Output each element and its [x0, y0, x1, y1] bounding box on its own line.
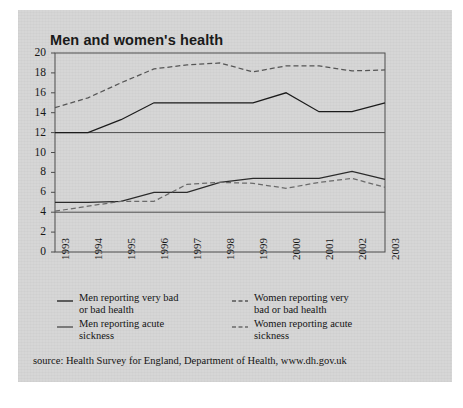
source-note: source: Health Survey for England, Depar…	[33, 355, 347, 366]
series-line-3	[55, 178, 385, 211]
x-tick-label: 1994	[92, 238, 104, 260]
series-line-1	[55, 63, 385, 108]
legend-label-line2: sickness	[79, 330, 164, 342]
y-tick-label: 4	[24, 205, 46, 217]
legend-label-line1: Women reporting acute	[254, 318, 352, 330]
legend-label-line1: Men reporting acute	[79, 318, 164, 330]
legend-item-label: Women reporting acutesickness	[254, 318, 352, 341]
legend-item-label: Women reporting verybad or bad health	[254, 292, 349, 315]
legend-label-line2: or bad health	[79, 304, 178, 316]
dashed-line-marker	[232, 292, 254, 315]
solid-line-marker	[57, 318, 79, 341]
x-tick-label: 2003	[389, 238, 401, 260]
x-tick-label: 2002	[356, 238, 368, 260]
legend-item-label: Men reporting acutesickness	[79, 318, 164, 341]
dashed-line-marker	[232, 318, 254, 341]
x-tick-label: 1996	[158, 238, 170, 260]
y-tick-label: 6	[24, 185, 46, 197]
plot-frame	[55, 53, 385, 252]
legend-label-line1: Men reporting very bad	[79, 292, 178, 304]
y-tick-label: 10	[24, 146, 46, 158]
series-line-0	[55, 93, 385, 133]
x-tick-label: 1999	[257, 238, 269, 260]
y-tick-label: 0	[24, 245, 46, 257]
x-tick-label: 2000	[290, 238, 302, 260]
x-tick-label: 1997	[191, 238, 203, 260]
y-tick-label: 20	[24, 46, 46, 58]
x-tick-label: 1998	[224, 238, 236, 260]
x-tick-label: 1993	[59, 238, 71, 260]
y-tick-label: 18	[24, 66, 46, 78]
y-tick-label: 8	[24, 165, 46, 177]
legend-label-line2: sickness	[254, 330, 352, 342]
series-line-2	[55, 171, 385, 202]
y-tick-label: 2	[24, 225, 46, 237]
chart-legend: Men reporting very bador bad healthWomen…	[57, 292, 417, 344]
legend-item-label: Men reporting very bador bad health	[79, 292, 178, 315]
y-tick-label: 12	[24, 126, 46, 138]
legend-label-line1: Women reporting very	[254, 292, 349, 304]
x-tick-label: 1995	[125, 238, 137, 260]
y-tick-label: 14	[24, 106, 46, 118]
chart-svg	[18, 10, 438, 270]
y-tick-label: 16	[24, 86, 46, 98]
x-tick-label: 2001	[323, 238, 335, 260]
legend-label-line2: bad or bad health	[254, 304, 349, 316]
legend-item: Women reporting acutesickness	[232, 318, 407, 341]
legend-item: Women reporting verybad or bad health	[232, 292, 407, 315]
solid-line-marker	[57, 292, 79, 315]
legend-item: Men reporting acutesickness	[57, 318, 232, 341]
legend-item: Men reporting very bador bad health	[57, 292, 232, 315]
